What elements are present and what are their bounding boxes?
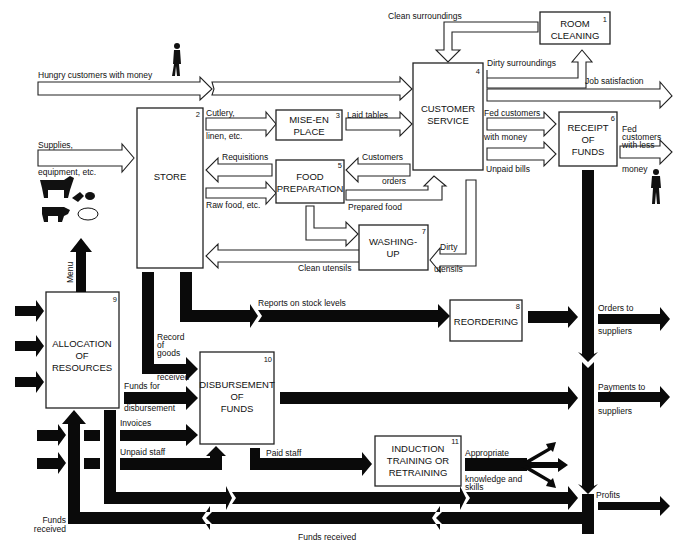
svg-text:7: 7 xyxy=(422,227,426,236)
label-equipment: equipment, etc. xyxy=(38,167,96,177)
label-fed-customers: Fed customers xyxy=(484,108,540,118)
arrow-disbursement-payments xyxy=(280,386,578,410)
label-raw-food: Raw food, etc. xyxy=(206,200,260,210)
box-mise-en-place: 3 MISE-EN PLACE xyxy=(276,110,342,140)
label-dirty-surroundings: Dirty surroundings xyxy=(487,58,556,68)
svg-text:TRAINING OR: TRAINING OR xyxy=(387,455,449,466)
label-clean-utensils: Clean utensils xyxy=(298,263,351,273)
label-laid-tables: Laid tables xyxy=(347,110,388,120)
svg-text:3: 3 xyxy=(336,111,340,120)
arrow-input-invoices xyxy=(37,424,66,446)
label-utensils: utensils xyxy=(434,264,463,274)
svg-text:FUNDS: FUNDS xyxy=(572,146,605,157)
label-dirty: Dirty xyxy=(440,242,458,252)
label-clean-surroundings: Clean surroundings xyxy=(388,11,462,21)
svg-text:8: 8 xyxy=(516,302,520,311)
svg-text:FUNDS: FUNDS xyxy=(221,403,254,414)
svg-text:WASHING-: WASHING- xyxy=(369,236,417,247)
svg-text:4: 4 xyxy=(476,67,480,76)
arrow-input-allocation-2 xyxy=(15,335,44,357)
svg-text:ALLOCATION: ALLOCATION xyxy=(52,338,112,349)
box-allocation-of-resources: 9 ALLOCATION OF RESOURCES xyxy=(46,292,119,408)
label-profits: Profits xyxy=(596,490,620,500)
svg-text:PLACE: PLACE xyxy=(293,126,324,137)
label-record-3: goods xyxy=(157,348,180,358)
flow-diagram: 1 ROOM CLEANING 2 STORE 3 MISE-EN PLACE … xyxy=(0,0,684,554)
svg-text:CLEANING: CLEANING xyxy=(551,30,600,41)
box-reordering: 8 REORDERING xyxy=(450,300,522,341)
arrow-to-washing-up xyxy=(306,206,358,246)
label-payments-to: Payments to xyxy=(598,382,646,392)
label-orders-to: Orders to xyxy=(598,303,634,313)
label-reports-stock: Reports on stock levels xyxy=(258,298,346,308)
livestock-produce-icon xyxy=(40,176,98,222)
svg-text:ROOM: ROOM xyxy=(560,18,590,29)
money-column xyxy=(578,170,598,362)
svg-text:DISBURSEMENT: DISBURSEMENT xyxy=(199,379,275,390)
arrow-dirty-surroundings xyxy=(487,50,592,88)
arrow-hungry-customers xyxy=(38,77,412,100)
svg-text:OF: OF xyxy=(230,391,243,402)
svg-text:6: 6 xyxy=(611,114,615,123)
label-cutlery: Cutlery, xyxy=(206,108,235,118)
arrow-reordering-out xyxy=(528,306,578,328)
box-customer-service: 4 CUSTOMER SERVICE xyxy=(413,63,483,170)
svg-text:OF: OF xyxy=(75,350,88,361)
label-paid-staff: Paid staff xyxy=(266,448,302,458)
label-suppliers-2: suppliers xyxy=(598,406,632,416)
svg-text:11: 11 xyxy=(451,437,459,446)
label-funds-received-left-2: received xyxy=(34,524,66,534)
svg-text:2: 2 xyxy=(196,110,200,119)
svg-text:STORE: STORE xyxy=(154,171,187,182)
label-unpaid-staff: Unpaid staff xyxy=(120,447,166,457)
label-orders: orders xyxy=(382,176,406,186)
svg-text:9: 9 xyxy=(113,295,117,304)
label-job-satisfaction: Job satisfaction xyxy=(585,76,644,86)
box-induction-training: 11 INDUCTION TRAINING OR RETRAINING xyxy=(375,436,461,486)
svg-text:FOOD: FOOD xyxy=(296,171,324,182)
box-disbursement-of-funds: 10 DISBURSEMENT OF FUNDS xyxy=(199,352,275,444)
label-disbursement: disbursement xyxy=(124,403,176,413)
label-suppliers-1: suppliers xyxy=(598,326,632,336)
label-prepared-food: Prepared food xyxy=(348,202,402,212)
svg-text:RECEIPT: RECEIPT xyxy=(567,122,608,133)
svg-text:SERVICE: SERVICE xyxy=(427,115,469,126)
walking-person-icon xyxy=(651,169,661,204)
label-record-4: received xyxy=(157,372,189,382)
arrow-funds-received xyxy=(206,506,440,530)
box-receipt-of-funds: 6 RECEIPT OF FUNDS xyxy=(559,112,617,166)
label-supplies: Supplies, xyxy=(38,140,73,150)
arrow-unpaid-bills xyxy=(487,142,556,166)
svg-text:INDUCTION: INDUCTION xyxy=(392,443,445,454)
label-fed-less-4: money xyxy=(622,164,648,174)
arrow-clean-surroundings xyxy=(436,22,538,62)
label-customers: Customers xyxy=(362,152,403,162)
svg-text:RESOURCES: RESOURCES xyxy=(52,362,112,373)
svg-text:MISE-EN: MISE-EN xyxy=(289,114,329,125)
svg-text:OF: OF xyxy=(581,134,594,145)
label-unpaid-bills: Unpaid bills xyxy=(486,164,530,174)
arrow-input-allocation-1 xyxy=(15,300,44,322)
arrow-reports-stock xyxy=(180,272,258,328)
label-menu: Menu xyxy=(65,261,75,283)
box-food-preparation: 5 FOOD PREPARATION xyxy=(276,160,344,203)
label-hungry-customers: Hungry customers with money xyxy=(38,70,153,80)
box-washing-up: 7 WASHING- UP xyxy=(359,225,428,270)
walking-person-icon xyxy=(172,43,181,76)
svg-text:REORDERING: REORDERING xyxy=(454,316,518,327)
label-linen: linen, etc. xyxy=(206,131,242,141)
svg-text:RETRAINING: RETRAINING xyxy=(389,467,448,478)
label-funds-received-bottom: Funds received xyxy=(298,532,356,542)
svg-text:UP: UP xyxy=(386,248,399,259)
label-fed-less-3: with less xyxy=(621,140,655,150)
label-with-money: with money xyxy=(483,132,528,142)
svg-text:5: 5 xyxy=(338,161,342,170)
arrow-input-allocation-3 xyxy=(15,371,44,393)
label-funds-for: Funds for xyxy=(124,381,160,391)
label-requisitions: Requisitions xyxy=(222,152,268,162)
label-invoices: Invoices xyxy=(120,418,151,428)
label-skills: skills xyxy=(465,482,483,492)
svg-text:1: 1 xyxy=(603,15,607,24)
svg-text:10: 10 xyxy=(264,355,272,364)
box-room-cleaning: 1 ROOM CLEANING xyxy=(540,12,610,44)
